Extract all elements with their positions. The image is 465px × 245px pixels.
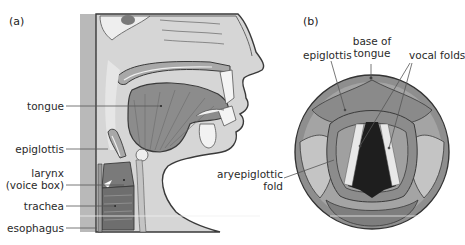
label-base-of-tongue-line1: base of	[350, 35, 394, 47]
label-tongue: tongue	[27, 100, 64, 112]
panel-b-laryngoscope-view	[295, 75, 449, 229]
panel-a-sagittal-section	[80, 14, 264, 232]
label-larynx-line2: (voice box)	[6, 179, 64, 191]
label-trachea: trachea	[24, 200, 64, 212]
label-aryepiglottic-line2: fold	[217, 180, 283, 192]
label-aryepiglottic-line1: aryepiglottic	[217, 168, 283, 180]
label-epiglottis-b: epiglottis	[303, 49, 352, 61]
anatomy-illustration	[0, 0, 465, 245]
label-esophagus: esophagus	[7, 222, 64, 234]
label-larynx-line1: larynx	[6, 167, 64, 179]
label-vocal-folds: vocal folds	[409, 49, 465, 61]
label-base-of-tongue-line2: tongue	[350, 47, 394, 59]
label-epiglottis-a: epiglottis	[15, 143, 64, 155]
label-aryepiglottic-fold: aryepiglottic fold	[217, 168, 283, 192]
label-larynx: larynx (voice box)	[6, 167, 64, 191]
label-base-of-tongue: base of tongue	[350, 35, 394, 59]
